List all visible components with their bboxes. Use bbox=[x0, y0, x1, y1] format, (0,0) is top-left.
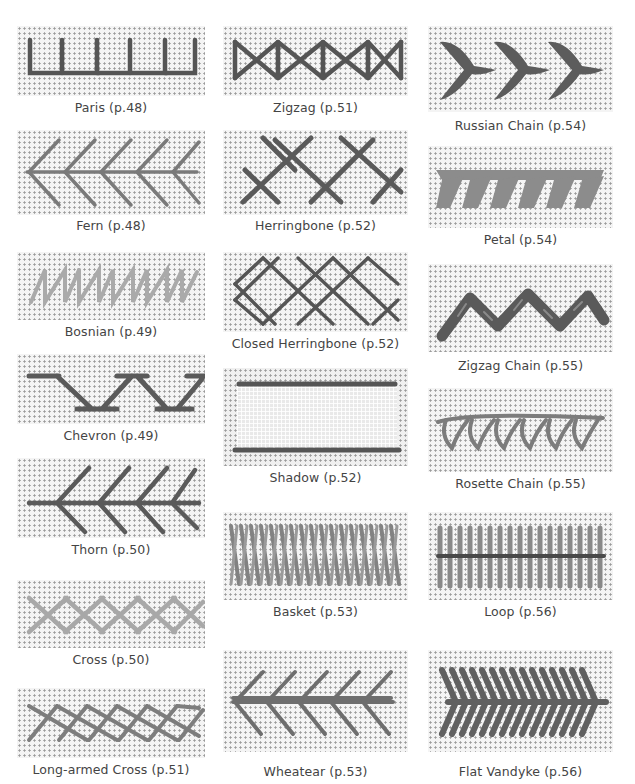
flat-vandyke-stitch-image bbox=[428, 650, 613, 752]
petal-stitch-icon bbox=[428, 146, 613, 228]
loop-stitch-image bbox=[428, 512, 613, 600]
stitch-caption: Fern (p.48) bbox=[17, 218, 205, 233]
stitch-sample-russian-chain: Russian Chain (p.54) bbox=[428, 26, 613, 134]
stitch-caption: Thorn (p.50) bbox=[17, 542, 205, 557]
stitch-caption: Wheatear (p.53) bbox=[223, 764, 408, 779]
stitch-sample-long-armed-cross: Long-armed Cross (p.51) bbox=[17, 688, 205, 784]
thorn-stitch-icon bbox=[17, 458, 205, 538]
fern-stitch-image bbox=[17, 130, 205, 215]
zigzag-stitch-image bbox=[223, 26, 408, 96]
stitch-caption: Bosnian (p.49) bbox=[17, 324, 205, 339]
stitch-caption: Chevron (p.49) bbox=[17, 428, 205, 443]
stitch-sample-rosette-chain: Rosette Chain (p.55) bbox=[428, 388, 613, 493]
stitch-caption: Russian Chain (p.54) bbox=[428, 118, 613, 133]
closed-herringbone-stitch-icon bbox=[223, 252, 408, 332]
closed-herringbone-stitch-image bbox=[223, 252, 408, 332]
wheatear-stitch-icon bbox=[223, 650, 408, 752]
stitch-sample-cross: Cross (p.50) bbox=[17, 580, 205, 668]
stitch-caption: Paris (p.48) bbox=[17, 100, 205, 115]
stitch-caption: Rosette Chain (p.55) bbox=[428, 476, 613, 491]
loop-stitch-icon bbox=[428, 512, 613, 600]
wheatear-stitch-image bbox=[223, 650, 408, 752]
chevron-stitch-image bbox=[17, 354, 205, 424]
paris-stitch-icon bbox=[17, 26, 205, 96]
stitch-sample-petal: Petal (p.54) bbox=[428, 146, 613, 242]
stitch-sample-fern: Fern (p.48) bbox=[17, 130, 205, 235]
stitch-caption: Zigzag Chain (p.55) bbox=[428, 358, 613, 373]
stitch-sample-flat-vandyke: Flat Vandyke (p.56) bbox=[428, 650, 613, 784]
thorn-stitch-image bbox=[17, 458, 205, 538]
stitch-sample-zigzag: Zigzag (p.51) bbox=[223, 26, 408, 121]
stitch-sample-wheatear: Wheatear (p.53) bbox=[223, 650, 408, 784]
zigzag-chain-stitch-icon bbox=[428, 264, 613, 352]
stitch-caption: Closed Herringbone (p.52) bbox=[223, 336, 408, 351]
zigzag-chain-stitch-image bbox=[428, 264, 613, 352]
stitch-sample-paris: Paris (p.48) bbox=[17, 26, 205, 121]
chevron-stitch-icon bbox=[17, 354, 205, 424]
bosnian-stitch-icon bbox=[17, 252, 205, 320]
basket-stitch-image bbox=[223, 512, 408, 600]
stitch-sample-closed-herringbone: Closed Herringbone (p.52) bbox=[223, 252, 408, 347]
stitch-sample-loop: Loop (p.56) bbox=[428, 512, 613, 622]
stitch-caption: Long-armed Cross (p.51) bbox=[17, 762, 205, 777]
stitch-caption: Loop (p.56) bbox=[428, 604, 613, 619]
bosnian-stitch-image bbox=[17, 252, 205, 320]
stitch-caption: Zigzag (p.51) bbox=[223, 100, 408, 115]
shadow-stitch-image bbox=[223, 368, 408, 466]
fern-stitch-icon bbox=[17, 130, 205, 215]
stitch-sample-thorn: Thorn (p.50) bbox=[17, 458, 205, 558]
shadow-stitch-icon bbox=[223, 368, 408, 466]
rosette-chain-stitch-icon bbox=[428, 388, 613, 472]
petal-stitch-image bbox=[428, 146, 613, 228]
russian-chain-stitch-icon bbox=[428, 26, 613, 112]
basket-stitch-icon bbox=[223, 512, 408, 600]
stitch-caption: Shadow (p.52) bbox=[223, 470, 408, 485]
stitch-caption: Flat Vandyke (p.56) bbox=[428, 764, 613, 779]
stitch-sample-basket: Basket (p.53) bbox=[223, 512, 408, 622]
cross-stitch-icon bbox=[17, 580, 205, 648]
stitch-sample-herringbone: Herringbone (p.52) bbox=[223, 130, 408, 235]
stitch-sample-shadow: Shadow (p.52) bbox=[223, 368, 408, 488]
stitch-caption: Cross (p.50) bbox=[17, 652, 205, 667]
paris-stitch-image bbox=[17, 26, 205, 96]
herringbone-stitch-icon bbox=[223, 130, 408, 215]
cross-stitch-image bbox=[17, 580, 205, 648]
stitch-sample-chevron: Chevron (p.49) bbox=[17, 354, 205, 446]
russian-chain-stitch-image bbox=[428, 26, 613, 112]
stitch-caption: Petal (p.54) bbox=[428, 232, 613, 247]
stitch-caption: Herringbone (p.52) bbox=[223, 218, 408, 233]
stitch-sample-zigzag-chain: Zigzag Chain (p.55) bbox=[428, 264, 613, 374]
zigzag-stitch-icon bbox=[223, 26, 408, 96]
stitch-sample-bosnian: Bosnian (p.49) bbox=[17, 252, 205, 342]
herringbone-stitch-image bbox=[223, 130, 408, 215]
long-armed-cross-stitch-image bbox=[17, 688, 205, 758]
rosette-chain-stitch-image bbox=[428, 388, 613, 472]
stitch-caption: Basket (p.53) bbox=[223, 604, 408, 619]
flat-vandyke-stitch-icon bbox=[428, 650, 613, 752]
long-armed-cross-stitch-icon bbox=[17, 688, 205, 758]
